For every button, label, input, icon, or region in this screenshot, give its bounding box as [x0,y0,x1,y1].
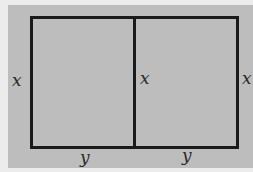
label-middle-divider: x [140,70,150,87]
label-bottom-right: y [182,147,192,164]
middle-divider-line [133,16,136,146]
label-bottom-left: y [80,149,90,166]
label-left-side: x [12,72,22,89]
label-right-side: x [242,70,252,87]
